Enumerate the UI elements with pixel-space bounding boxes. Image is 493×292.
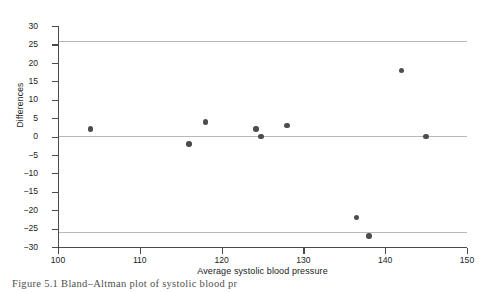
scatter-point xyxy=(399,68,404,73)
y-tick-label: −5 xyxy=(0,151,38,160)
upper-limit-of-agreement-line xyxy=(58,41,467,42)
x-tick xyxy=(385,248,386,254)
y-tick-label: 10 xyxy=(0,95,38,104)
x-tick-label: 130 xyxy=(283,256,323,265)
scatter-point xyxy=(366,233,371,238)
y-tick-label: −25 xyxy=(0,224,38,233)
scatter-point xyxy=(258,134,263,139)
y-tick-label: 20 xyxy=(0,59,38,68)
y-tick-label: 30 xyxy=(0,22,38,31)
y-tick xyxy=(52,229,58,230)
bland-altman-scatter-plot: Differences Average systolic blood press… xyxy=(0,0,493,292)
figure-caption: Figure 5.1 Bland–Altman plot of systolic… xyxy=(12,278,237,289)
scatter-point xyxy=(354,215,359,220)
y-tick xyxy=(52,137,58,138)
scatter-point xyxy=(88,126,93,131)
y-tick-label: 5 xyxy=(0,114,38,123)
y-tick xyxy=(52,26,58,27)
x-tick-label: 140 xyxy=(365,256,405,265)
x-tick xyxy=(140,248,141,254)
y-tick xyxy=(52,100,58,101)
scatter-point xyxy=(186,141,191,146)
y-tick xyxy=(52,173,58,174)
x-tick xyxy=(58,248,59,254)
scatter-point xyxy=(423,134,428,139)
scatter-point xyxy=(284,123,289,128)
y-tick xyxy=(52,118,58,119)
x-axis-line xyxy=(58,247,467,248)
y-tick-label: 0 xyxy=(0,132,38,141)
y-tick xyxy=(52,81,58,82)
x-tick-label: 100 xyxy=(38,256,78,265)
lower-limit-of-agreement-line xyxy=(58,232,467,233)
figure-root: Differences Average systolic blood press… xyxy=(0,0,493,292)
y-axis-line xyxy=(58,26,59,248)
scatter-point xyxy=(253,126,258,131)
x-tick-label: 150 xyxy=(447,256,487,265)
y-tick-label: −10 xyxy=(0,169,38,178)
y-tick xyxy=(52,192,58,193)
y-tick xyxy=(52,210,58,211)
x-tick xyxy=(222,248,223,254)
x-tick-label: 120 xyxy=(202,256,242,265)
y-tick-label: −15 xyxy=(0,187,38,196)
y-tick xyxy=(52,63,58,64)
y-tick-label: 25 xyxy=(0,40,38,49)
x-tick xyxy=(467,248,468,254)
y-tick-label: −20 xyxy=(0,206,38,215)
x-tick-label: 110 xyxy=(120,256,160,265)
y-tick xyxy=(52,155,58,156)
scatter-point xyxy=(203,119,208,124)
y-tick-label: −30 xyxy=(0,243,38,252)
x-axis-title: Average systolic blood pressure xyxy=(58,266,467,276)
y-tick xyxy=(52,44,58,45)
x-tick xyxy=(303,248,304,254)
y-tick-label: 15 xyxy=(0,77,38,86)
